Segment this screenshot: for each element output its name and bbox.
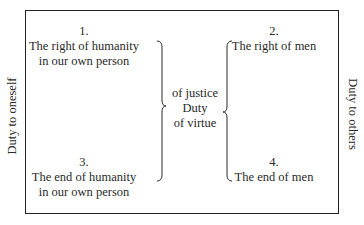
left-curly-brace-icon xyxy=(0,0,364,225)
